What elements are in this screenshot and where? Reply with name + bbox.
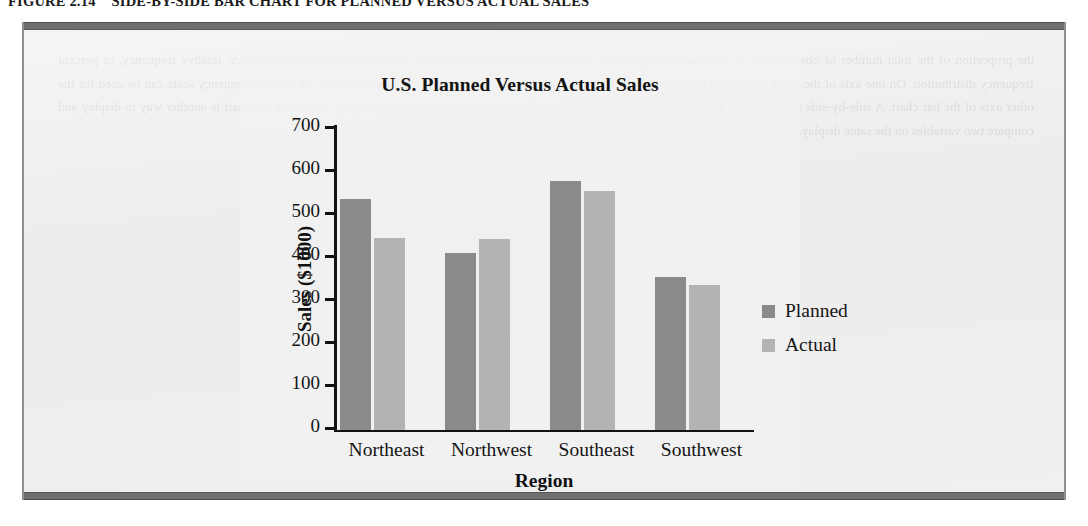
y-axis-tick (325, 298, 334, 301)
bar-group (439, 129, 544, 430)
bar-planned (445, 253, 476, 429)
y-axis-title: Sales ($1000) (294, 225, 316, 331)
y-axis-tick-label: 500 (256, 200, 320, 222)
legend-swatch-icon (762, 305, 775, 318)
bar-planned (655, 277, 686, 429)
plot-area: Sales ($1000) 7006005004003002001000 Nor… (334, 125, 754, 432)
legend-item: Planned (762, 294, 902, 328)
legend-label: Planned (785, 300, 848, 322)
y-axis-tick (325, 126, 334, 129)
x-axis-tick-label: Northeast (334, 432, 439, 461)
chart-figure: U.S. Planned Versus Actual Sales Sales (… (240, 42, 800, 482)
legend-label: Actual (785, 334, 837, 356)
x-axis-title: Region (334, 470, 754, 492)
y-axis-tick-label: 300 (256, 286, 320, 308)
legend-swatch-icon (762, 339, 775, 352)
legend-item: Actual (762, 328, 902, 362)
bar-actual (689, 285, 720, 429)
figure-number: FIGURE 2.14 (8, 0, 96, 9)
bar-planned (550, 181, 581, 430)
chart-title: U.S. Planned Versus Actual Sales (240, 74, 800, 96)
x-axis-tick-label: Southwest (649, 432, 754, 461)
figure-panel: the proportion of the total number of ob… (22, 22, 1066, 500)
figure-caption-text: SIDE-BY-SIDE BAR CHART FOR PLANNED VERSU… (112, 0, 590, 9)
bar-actual (479, 239, 510, 430)
y-axis-tick-label: 700 (256, 114, 320, 136)
bar-group (649, 129, 754, 430)
bar-actual (374, 238, 405, 430)
y-axis-tick (325, 255, 334, 258)
bar-actual (584, 191, 615, 429)
bar-planned (340, 199, 371, 430)
y-axis-tick-label: 100 (256, 372, 320, 394)
y-axis-tick (325, 169, 334, 172)
rule-top (24, 22, 1064, 30)
y-axis-tick-label: 400 (256, 243, 320, 265)
bar-group (544, 129, 649, 430)
y-axis-tick (325, 212, 334, 215)
y-axis-tick (325, 341, 334, 344)
x-axis-tick-label: Southeast (544, 432, 649, 461)
y-axis-tick-label: 600 (256, 157, 320, 179)
rule-bottom (24, 492, 1064, 500)
chart-legend: PlannedActual (762, 294, 902, 362)
y-axis-tick (325, 427, 334, 430)
y-axis-tick-label: 200 (256, 329, 320, 351)
y-axis-tick-label: 0 (256, 415, 320, 437)
x-axis-tick-label: Northwest (439, 432, 544, 461)
bar-group (334, 129, 439, 430)
figure-caption: FIGURE 2.14SIDE-BY-SIDE BAR CHART FOR PL… (8, 0, 1078, 11)
y-axis-tick (325, 384, 334, 387)
